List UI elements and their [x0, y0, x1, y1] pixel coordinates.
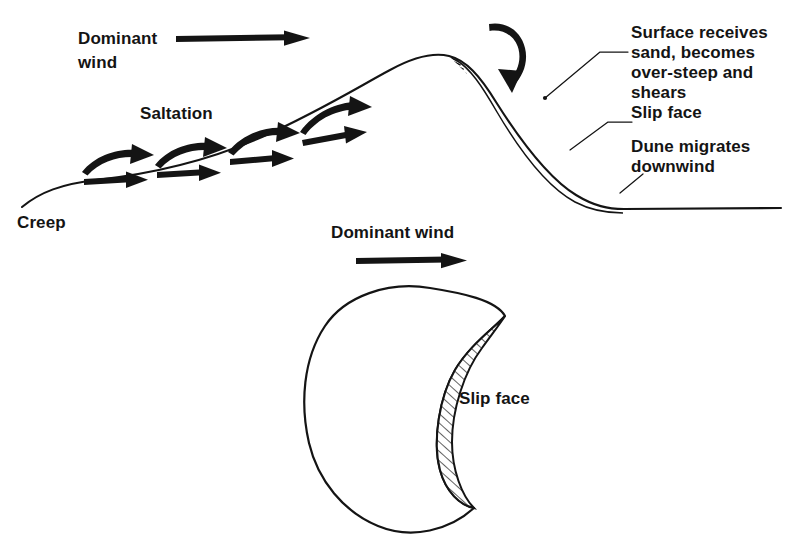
- saltation-arrow-1: [82, 144, 154, 188]
- dominant-wind-arrow-middle: [356, 253, 467, 268]
- leader-slip-face: [570, 122, 632, 150]
- dune-diagram: Dominant wind Saltation Creep: [0, 0, 804, 546]
- leader-dune-migrates: [620, 174, 643, 193]
- label-saltation: Saltation: [140, 104, 213, 123]
- label-slip-face-lower: Slip face: [459, 389, 530, 408]
- leader-dot-surface-receives: [543, 96, 547, 100]
- saltation-arrow-2: [155, 137, 227, 181]
- label-creep: Creep: [17, 213, 66, 232]
- label-surface-receives-line1: Surface receives: [631, 23, 768, 42]
- lower-panel: Dominant wind Slip face: [304, 223, 530, 532]
- diagram-canvas: Dominant wind Saltation Creep: [0, 0, 804, 546]
- crest-recirculation-arrow: [489, 23, 526, 93]
- leader-lines: [545, 52, 643, 193]
- label-surface-receives-line4: shears: [631, 83, 686, 102]
- label-dune-migrates-line1: Dune migrates: [631, 137, 750, 156]
- label-slip-face-upper: Slip face: [631, 103, 702, 122]
- saltation-arrow-3: [228, 122, 300, 167]
- saltation-arrow-4: [300, 96, 372, 146]
- dominant-wind-arrow-top: [176, 31, 310, 46]
- leader-surface-receives: [545, 52, 628, 98]
- label-dominant-wind-middle: Dominant wind: [331, 223, 454, 242]
- barchan-dune-outline: [304, 286, 505, 532]
- slip-face-hatching: [451, 58, 624, 217]
- upper-panel: Dominant wind Saltation Creep: [17, 23, 781, 232]
- label-surface-receives-line2: sand, becomes: [631, 43, 755, 62]
- label-dominant-wind-top-line2: wind: [77, 53, 117, 72]
- saltation-arrows: [82, 96, 372, 188]
- label-surface-receives-line3: over-steep and: [631, 63, 753, 82]
- label-dune-migrates-line2: downwind: [631, 157, 715, 176]
- label-dominant-wind-top-line1: Dominant: [78, 29, 157, 48]
